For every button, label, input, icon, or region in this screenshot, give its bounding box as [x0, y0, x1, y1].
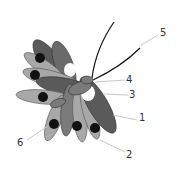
callout-label-5: 5	[160, 28, 166, 38]
callout-label-2: 2	[126, 150, 132, 160]
diagram-canvas	[0, 0, 181, 173]
filament-2	[93, 48, 140, 80]
callout-label-1: 1	[139, 113, 145, 123]
callout-label-6: 6	[17, 138, 23, 148]
callout-label-4: 4	[126, 75, 132, 85]
filament-1	[92, 22, 114, 78]
callout-label-3: 3	[129, 90, 135, 100]
fan-structure-diagram: 1 2 3 4 5 6	[0, 0, 181, 173]
